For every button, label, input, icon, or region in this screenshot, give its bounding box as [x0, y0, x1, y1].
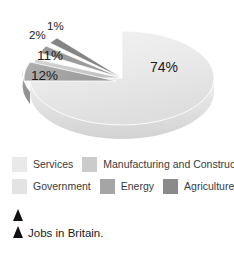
legend-label-services: Services: [27, 158, 82, 170]
legend-swatch-energy: [100, 179, 115, 194]
legend-swatch-government: [12, 179, 27, 194]
pie-chart: 1% 2% 11% 12% 74%: [0, 0, 234, 148]
legend-item-services[interactable]: Services: [12, 157, 82, 172]
figure-caption: Jobs in Britain.: [13, 209, 103, 238]
legend-swatch-agriculture: [163, 179, 178, 194]
legend-item-energy[interactable]: Energy: [100, 179, 163, 194]
legend-swatch-manufacturing-and-construction: [82, 157, 97, 172]
legend-label-agriculture: Agriculture: [178, 180, 234, 192]
triangle-up-icon: [13, 209, 23, 221]
legend-item-agriculture[interactable]: Agriculture: [163, 179, 234, 194]
legend-label-government: Government: [27, 180, 100, 192]
triangle-up-icon: [13, 226, 23, 238]
pie-label-services: 74%: [150, 60, 178, 74]
chart-legend: Services Manufacturing and Construction …: [12, 154, 230, 198]
legend-label-manufacturing-and-construction: Manufacturing and Construction: [97, 158, 234, 170]
pie-label-manufacturing: 11%: [37, 49, 63, 63]
figure-jobs-in-britain: 1% 2% 11% 12% 74% Services Manufacturing…: [0, 0, 234, 253]
legend-swatch-services: [12, 157, 27, 172]
caption-line: Jobs in Britain.: [13, 226, 103, 238]
legend-item-manufacturing-and-construction[interactable]: Manufacturing and Construction: [82, 157, 234, 172]
legend-row: Government Energy Agriculture: [12, 176, 230, 196]
caption-text: Jobs in Britain.: [23, 228, 103, 240]
legend-row: Services Manufacturing and Construction: [12, 154, 230, 174]
pie-label-government: 12%: [31, 69, 58, 83]
pie-label-energy: 2%: [29, 30, 46, 42]
legend-item-government[interactable]: Government: [12, 179, 100, 194]
pie-label-agriculture: 1%: [47, 21, 64, 33]
legend-label-energy: Energy: [115, 180, 163, 192]
